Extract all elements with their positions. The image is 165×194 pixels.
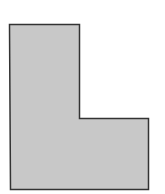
diagram-canvas	[0, 0, 165, 194]
l-shape-polygon	[10, 25, 149, 190]
